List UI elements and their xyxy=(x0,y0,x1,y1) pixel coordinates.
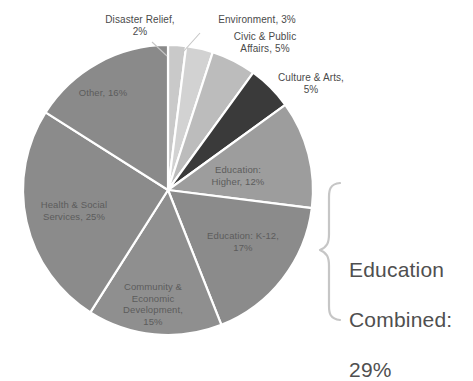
education-combined-annotation: Education Combined: 29% xyxy=(349,232,473,381)
slice-label-education-k12: Education: K-12, 17% xyxy=(190,230,296,253)
slice-label-education-higher: Education: Higher, 12% xyxy=(194,164,282,187)
annotation-line-1: Education xyxy=(349,257,473,282)
slice-label-civic-public-affairs: Civic & Public Affairs, 5% xyxy=(208,31,322,55)
slice-label-health-social-services: Health & Social Services, 25% xyxy=(20,199,128,222)
slice-label-disaster-relief: Disaster Relief, 2% xyxy=(88,14,192,38)
slice-label-environment: Environment, 3% xyxy=(196,14,318,26)
slice-label-other: Other, 16% xyxy=(62,87,144,99)
annotation-line-3: 29% xyxy=(349,357,473,381)
slice-label-culture-arts: Culture & Arts, 5% xyxy=(258,72,364,96)
slice-label-community-economic-development: Community & Economic Development, 15% xyxy=(104,281,202,327)
annotation-line-2: Combined: xyxy=(349,307,473,332)
